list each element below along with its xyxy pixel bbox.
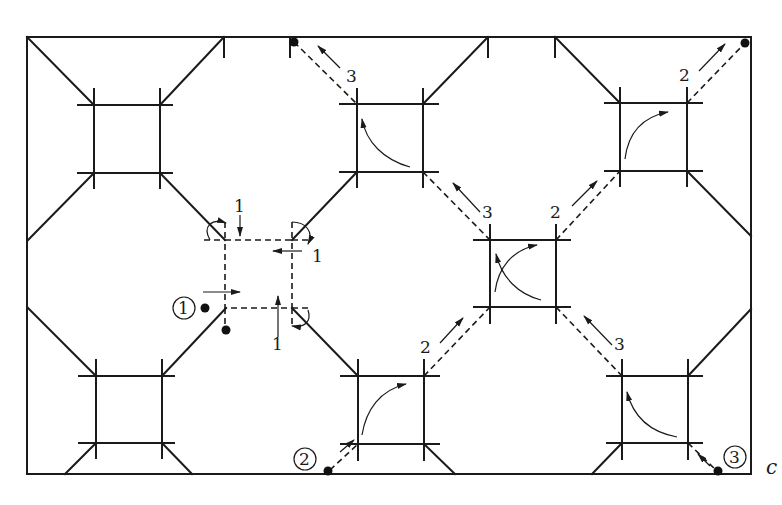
start-marker-2: 2 xyxy=(294,448,316,470)
corner-label-c: c xyxy=(766,455,777,479)
start-marker-3: 3 xyxy=(724,446,746,468)
label-path3-topmid: 3 xyxy=(346,66,357,86)
svg-text:2: 2 xyxy=(299,449,310,469)
label-path3-center-ul: 3 xyxy=(482,202,493,222)
label-path1-right: 1 xyxy=(312,246,323,266)
start-marker-1: 1 xyxy=(173,297,195,319)
square-bottom-left xyxy=(78,359,175,459)
pattern-diagram: 1 1 1 3 3 3 2 2 2 xyxy=(0,0,782,505)
path-2-dashed xyxy=(330,43,745,470)
label-path1-bottom: 1 xyxy=(272,334,283,354)
label-path2-center-ll: 2 xyxy=(420,337,431,357)
label-path1-top: 1 xyxy=(234,196,245,216)
label-path3-center-lr: 3 xyxy=(614,334,625,354)
svg-text:3: 3 xyxy=(729,447,740,467)
label-path2-topright: 2 xyxy=(679,65,690,85)
svg-text:1: 1 xyxy=(178,298,189,318)
label-path2-center-ur: 2 xyxy=(550,202,561,222)
path-2-arrows xyxy=(340,44,725,452)
